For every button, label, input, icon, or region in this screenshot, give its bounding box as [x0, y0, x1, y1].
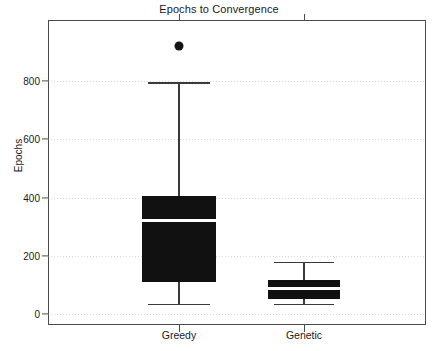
x-tick-label-greedy: Greedy [162, 329, 196, 341]
whisker-cap-lower-genetic [274, 304, 334, 305]
y-tick-label-200: 200 [0, 250, 40, 261]
y-tick-mark-800 [42, 80, 49, 81]
y-tick-mark-400 [42, 197, 49, 198]
whisker-cap-upper-genetic [274, 262, 334, 263]
plot-canvas [48, 20, 426, 325]
chart-title: Epochs to Convergence [0, 3, 438, 15]
y-tick-mark-0 [42, 313, 49, 314]
whisker-upper-genetic [303, 262, 304, 280]
y-tick-label-800: 800 [0, 76, 40, 87]
y-axis-title: Epochs [13, 126, 24, 186]
median-line-genetic [268, 287, 340, 290]
box-plot-genetic [48, 20, 426, 325]
y-tick-mark-200 [42, 255, 49, 256]
y-tick-mark-600 [42, 139, 49, 140]
y-tick-label-0: 0 [0, 309, 40, 320]
x-top-tick-mark-genetic [304, 14, 305, 20]
x-tick-label-genetic: Genetic [286, 329, 322, 341]
box-plot-figure: Epochs to Convergence 0200400600800Epoch… [0, 0, 438, 351]
x-top-tick-mark-greedy [179, 14, 180, 20]
box-iqr-genetic [268, 280, 340, 299]
y-tick-label-400: 400 [0, 192, 40, 203]
